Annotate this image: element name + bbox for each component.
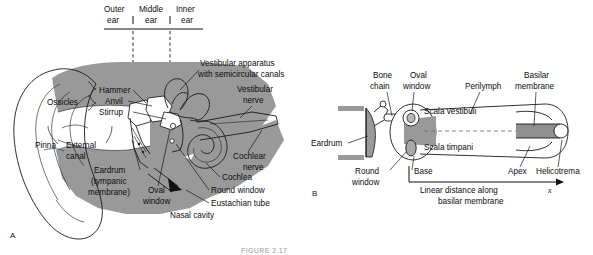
stirrup-label: Stirrup bbox=[99, 108, 124, 117]
oval-window-label-line1: Oval bbox=[148, 186, 165, 195]
hammer-label: Hammer bbox=[99, 86, 131, 95]
outer-ear-label-line1: Outer bbox=[104, 5, 125, 14]
cochlear-nerve-label-line2: nerve bbox=[243, 163, 264, 172]
ear-anatomy-figure: Outer ear Middle ear Inner ear bbox=[0, 0, 593, 255]
apex-label: Apex bbox=[508, 167, 527, 176]
round-window-b-label-line2: window bbox=[351, 178, 379, 187]
basilar-membrane-label-line1: Basilar bbox=[524, 71, 549, 80]
round-window-label: Round window bbox=[211, 186, 265, 195]
bone-chain-label-line1: Bone bbox=[373, 71, 393, 80]
canal-wall-upper bbox=[338, 106, 364, 111]
inner-ear-label-line1: Inner bbox=[176, 5, 195, 14]
oval-window-b-label-line2: window bbox=[402, 82, 430, 91]
helicotrema-label: Helicotrema bbox=[536, 167, 580, 176]
pinna-label: Pinna bbox=[35, 141, 56, 150]
external-canal-label-line1: External bbox=[66, 141, 96, 150]
round-window-b-label-line1: Round bbox=[355, 167, 380, 176]
vestibular-apparatus-label-line1: Vestibular apparatus bbox=[200, 59, 275, 68]
figure-caption: FIGURE 2.17 bbox=[241, 247, 287, 254]
base-label: Base bbox=[414, 167, 433, 176]
eustachian-tube-label: Eustachian tube bbox=[211, 199, 270, 208]
eardrum-b-label: Eardrum bbox=[311, 139, 343, 148]
axis-label-line1: Linear distance along bbox=[420, 186, 498, 195]
eardrum-dot-2 bbox=[142, 151, 144, 153]
cochlear-nerve-label-line1: Cochlear bbox=[233, 152, 266, 161]
vestibular-nerve-label-line1: Vestibular bbox=[237, 85, 273, 94]
cochlea-label: Cochlea bbox=[222, 173, 252, 182]
outer-ear-label-line2: ear bbox=[107, 16, 119, 25]
bone-chain-label-line2: chain bbox=[370, 82, 390, 91]
eardrum-label-line2: (tympanic bbox=[91, 177, 127, 186]
oval-window-b-label-line1: Oval bbox=[410, 71, 427, 80]
inner-ear-label-line2: ear bbox=[181, 16, 193, 25]
oval-window-opening bbox=[170, 123, 175, 128]
helicotrema-opening bbox=[554, 124, 568, 138]
perilymph-label: Perilymph bbox=[465, 82, 502, 91]
eardrum-label-line1: Eardrum bbox=[94, 166, 126, 175]
scala-vestibuli-label: Scala vestibuli bbox=[424, 107, 477, 116]
panel-b-letter: B bbox=[312, 189, 317, 198]
bone-chain-joint bbox=[380, 101, 386, 107]
basilar-membrane-label-line2: membrane bbox=[515, 82, 555, 91]
vestibular-nerve-label-line2: nerve bbox=[243, 96, 264, 105]
panel-a-letter: A bbox=[10, 231, 16, 240]
middle-ear-label-line2: ear bbox=[145, 16, 157, 25]
round-window-opening bbox=[170, 139, 174, 143]
eardrum-label-line3: membrane) bbox=[88, 188, 130, 197]
round-window-membrane bbox=[406, 140, 416, 156]
oval-window-label-line2: window bbox=[142, 197, 170, 206]
axis-symbol-x: x bbox=[547, 186, 552, 195]
eardrum-dot-1 bbox=[138, 143, 140, 145]
nasal-cavity-label: Nasal cavity bbox=[170, 211, 215, 220]
basilar-membrane-band bbox=[516, 124, 560, 138]
oval-window-membrane bbox=[407, 113, 415, 122]
canal-wall-lower bbox=[338, 155, 364, 160]
axis-label-line2: basilar membrane bbox=[438, 197, 504, 206]
ossicles-label: Ossicles bbox=[47, 98, 78, 107]
external-canal-label-line2: canal bbox=[66, 152, 86, 161]
vestibular-apparatus-label-line2: with semicircular canals bbox=[197, 70, 284, 79]
scala-timpani-label: Scala timpani bbox=[424, 143, 473, 152]
anvil-label: Anvil bbox=[105, 97, 123, 106]
figure-canvas: Outer ear Middle ear Inner ear bbox=[0, 0, 593, 255]
middle-ear-label-line1: Middle bbox=[139, 5, 164, 14]
